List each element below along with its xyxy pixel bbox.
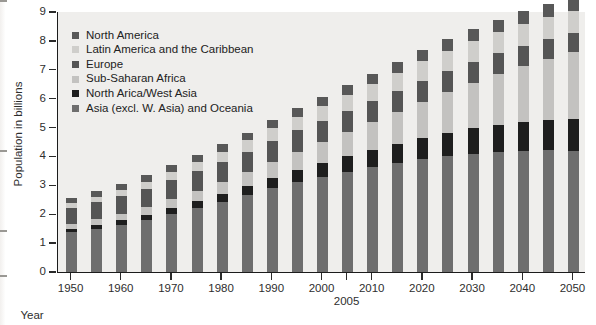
x-axis-title: Year [0,309,596,321]
y-axis-label: 1 [2,237,46,249]
bar-segment [217,152,228,162]
y-axis-label: 8 [2,35,46,47]
bar-segment [543,150,554,272]
bar-segment [367,101,378,122]
bar[interactable] [166,165,177,272]
bar-segment [166,214,177,272]
legend-item[interactable]: Sub-Saharan Africa [72,72,254,87]
bar-segment [342,132,353,157]
bar-segment [217,202,228,272]
bar[interactable] [367,74,378,272]
bar-segment [242,172,253,186]
y-axis-tick [49,11,56,12]
legend-swatch-icon [72,32,79,39]
y-axis-tick [49,185,56,186]
bar[interactable] [493,20,504,272]
x-axis-label: 2000 [297,282,347,294]
x-axis-label: 1970 [146,282,196,294]
bar[interactable] [468,29,479,272]
bar[interactable] [417,50,428,272]
bar[interactable] [342,85,353,272]
bar-segment [267,128,278,141]
bar-segment [317,106,328,121]
bar-segment [342,156,353,171]
bar[interactable] [317,97,328,272]
bar-segment [442,92,453,133]
bar-segment [568,151,579,272]
bar[interactable] [242,133,253,273]
bar-segment [392,144,403,163]
bar-segment [543,59,554,120]
bar[interactable] [267,120,278,272]
bar-segment [116,196,127,213]
bar[interactable] [442,39,453,272]
legend-item[interactable]: Asia (excl. W. Asia) and Oceania [72,101,254,116]
x-axis-label: 1980 [196,282,246,294]
bar-segment [568,11,579,33]
bar-segment [468,29,479,41]
x-axis-tick [471,273,472,280]
legend-swatch-icon [72,105,79,112]
bar-segment [317,97,328,106]
x-axis-tick [120,273,121,280]
bar-segment [568,119,579,151]
y-axis-tick [49,271,56,272]
y-axis-label: 3 [2,179,46,191]
bar-segment [342,95,353,111]
page-edge-mark [0,230,7,232]
bar-segment [367,84,378,101]
bar-segment [342,85,353,95]
bar-segment [367,122,378,150]
y-axis-label: 2 [2,208,46,220]
bar-segment [192,162,203,172]
bar[interactable] [392,62,403,272]
bar-segment [417,81,428,102]
bar[interactable] [66,198,77,272]
bar-segment [518,24,529,46]
bar[interactable] [543,4,554,272]
x-axis-label: 1950 [46,282,96,294]
bar-segment [217,144,228,151]
bar-segment [493,53,504,74]
bar-segment [518,151,529,272]
bar-segment [166,172,177,180]
bar-segment [493,125,504,152]
bar-segment [493,152,504,272]
bar-segment [141,220,152,272]
y-axis-label: 7 [2,64,46,76]
bar-segment [442,51,453,71]
x-axis-tick [271,273,272,280]
bar-segment [91,202,102,219]
bar-segment [417,50,428,61]
legend-item[interactable]: North America [72,28,254,43]
bar-segment [292,182,303,272]
bar-segment [317,163,328,177]
legend-item[interactable]: Latin America and the Caribbean [72,43,254,58]
bar-segment [392,163,403,272]
bar-segment [442,133,453,156]
legend-item-label: Europe [86,59,123,71]
bar-segment [192,171,203,191]
bar-segment [493,20,504,32]
bar[interactable] [292,108,303,272]
x-axis-label: 2050 [547,282,596,294]
bar-segment [518,11,529,24]
legend-item-label: Sub-Saharan Africa [86,73,186,85]
bar-segment [192,201,203,208]
bar[interactable] [91,191,102,272]
bar[interactable] [217,144,228,272]
bar[interactable] [192,155,203,272]
bar[interactable] [141,175,152,272]
bar[interactable] [568,0,579,272]
bar-segment [141,182,152,189]
legend-item[interactable]: North Arica/West Asia [72,86,254,101]
bar-segment [292,130,303,151]
bar-segment [317,121,328,142]
bar[interactable] [116,184,127,272]
y-axis-label: 4 [2,150,46,162]
bar[interactable] [518,11,529,272]
plot-area: North AmericaLatin America and the Carib… [57,12,585,273]
bar-segment [217,182,228,194]
y-axis-tick [49,69,56,70]
legend-item[interactable]: Europe [72,57,254,72]
